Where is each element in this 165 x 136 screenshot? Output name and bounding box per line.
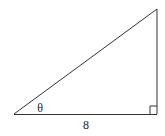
- angle-label-theta: θ: [37, 101, 43, 115]
- base-length-label: 8: [83, 118, 89, 132]
- hypotenuse: [14, 9, 157, 114]
- right-triangle: [14, 9, 157, 115]
- triangle-diagram: θ 8: [0, 0, 165, 136]
- right-angle-marker: [150, 106, 157, 114]
